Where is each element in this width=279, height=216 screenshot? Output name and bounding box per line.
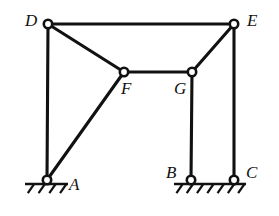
joint-g[interactable] (188, 68, 196, 76)
ground-left-hatch (39, 184, 45, 193)
node-label-g: G (174, 80, 186, 97)
supports-group (25, 184, 246, 193)
member-da (47, 24, 48, 180)
joint-b[interactable] (187, 176, 195, 184)
ground-right-hatch (238, 184, 244, 193)
truss-figure: ABCDEFG (0, 0, 279, 216)
joint-c[interactable] (230, 176, 238, 184)
ground-left-hatch (49, 184, 55, 193)
node-label-c: C (246, 164, 257, 181)
ground-left-hatch (28, 184, 34, 193)
ground-left-hatch (60, 184, 66, 193)
joint-d[interactable] (44, 20, 52, 28)
joint-f[interactable] (120, 68, 128, 76)
node-label-f: F (121, 80, 131, 97)
ground-right-hatch (176, 184, 182, 193)
member-fa (47, 72, 124, 180)
joint-a[interactable] (43, 176, 51, 184)
joint-e[interactable] (230, 20, 238, 28)
joints-group (43, 20, 238, 184)
member-df (48, 24, 124, 72)
node-label-e: E (247, 12, 257, 29)
node-label-b: B (166, 164, 176, 181)
members-group (47, 24, 234, 180)
member-ge (192, 24, 234, 72)
ground-right-hatch (207, 184, 213, 193)
member-gb (191, 72, 192, 180)
truss-drawing-canvas (0, 0, 279, 216)
ground-right-hatch (197, 184, 203, 193)
node-label-a: A (69, 176, 79, 193)
ground-right-hatch (218, 184, 224, 193)
node-label-d: D (25, 12, 37, 29)
